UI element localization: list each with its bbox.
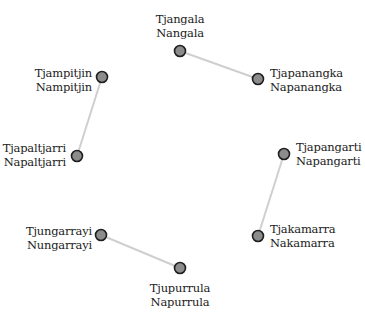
node-tjungarrayi[interactable] — [96, 230, 107, 241]
label-tjapangarti: Tjapangarti Napangarti — [296, 140, 362, 168]
label-line1: Tjapaltjarri — [0, 141, 66, 155]
node-tjapangarti[interactable] — [279, 149, 290, 160]
label-line2: Nampitjin — [22, 80, 92, 94]
label-tjakamarra: Tjakamarra Nakamarra — [270, 222, 336, 250]
edge-tjungarrayi-tjupurrula — [101, 235, 180, 268]
node-tjapanangka[interactable] — [253, 74, 264, 85]
node-tjapaltjarri[interactable] — [72, 151, 83, 162]
label-line2: Nangala — [150, 26, 210, 40]
label-line2: Nakamarra — [270, 236, 336, 250]
label-line2: Napaltjarri — [0, 155, 66, 169]
label-tjapaltjarri: Tjapaltjarri Napaltjarri — [0, 141, 66, 169]
edge-tjangala-tjapanangka — [180, 51, 258, 79]
node-tjakamarra[interactable] — [253, 231, 264, 242]
label-tjampitjin: Tjampitjin Nampitjin — [22, 66, 92, 94]
label-tjungarrayi: Tjungarrayi Nungarrayi — [12, 224, 92, 252]
label-line2: Nungarrayi — [12, 238, 92, 252]
label-line1: Tjapanangka — [270, 66, 343, 80]
node-tjampitjin[interactable] — [97, 72, 108, 83]
node-tjupurrula[interactable] — [175, 263, 186, 274]
label-line1: Tjupurrula — [145, 281, 215, 295]
label-line2: Napurrula — [145, 295, 215, 309]
label-line1: Tjakamarra — [270, 222, 336, 236]
label-line1: Tjampitjin — [22, 66, 92, 80]
label-tjapanangka: Tjapanangka Napanangka — [270, 66, 343, 94]
label-tjangala: Tjangala Nangala — [150, 12, 210, 40]
label-tjupurrula: Tjupurrula Napurrula — [145, 281, 215, 309]
label-line1: Tjapangarti — [296, 140, 362, 154]
node-tjangala[interactable] — [175, 46, 186, 57]
label-line1: Tjungarrayi — [12, 224, 92, 238]
label-line1: Tjangala — [150, 12, 210, 26]
label-line2: Napanangka — [270, 80, 343, 94]
label-line2: Napangarti — [296, 154, 362, 168]
